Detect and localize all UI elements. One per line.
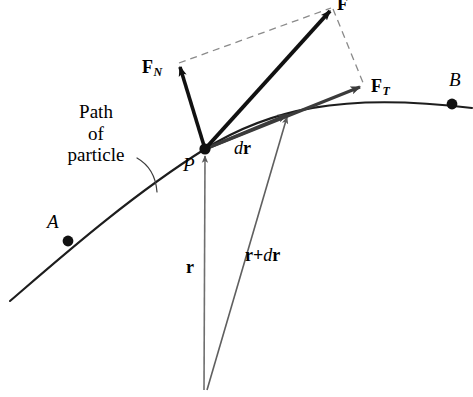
vector-f-resultant [205,11,330,149]
r-plus-dr-operator: + [253,245,263,265]
force-decomposition-diagram: Path of particle A B P F FN FT dr r r+dr [0,0,473,397]
f-tangential-base: F [371,76,382,96]
dr-differential: d [234,138,243,158]
point-p-label: P [183,155,195,174]
vector-f-normal-label: FN [142,58,162,78]
r-vector: r [186,257,194,277]
caption-line-2: of [46,123,146,145]
vector-dr-label: dr [234,139,251,157]
r-plus-dr-second: r [272,245,280,265]
point-b-label: B [449,70,461,89]
caption-line-3: particle [46,144,146,166]
f-normal-base: F [142,57,153,77]
vector-r-label: r [186,258,194,276]
f-normal-subscript: N [154,65,163,79]
point-b-marker [447,99,458,110]
vector-f-resultant-label: F [337,0,348,13]
vector-r-plus-dr-label: r+dr [245,246,280,264]
point-a-label: A [47,212,59,231]
point-a-marker [63,236,74,247]
vector-f-normal [180,67,205,149]
caption-line-1: Path [46,101,146,123]
f-resultant-base: F [337,0,348,14]
point-p-marker [199,143,210,154]
vector-f-tangential [205,87,360,149]
vector-f-tangential-label: FT [371,77,390,97]
dr-vector: r [243,138,251,158]
vector-r [204,156,205,390]
path-of-particle-caption: Path of particle [46,101,146,166]
r-plus-dr-first: r [245,245,253,265]
f-tangential-subscript: T [383,84,390,98]
dashed-parallelogram-right [333,9,364,85]
diagram-canvas [0,0,473,397]
r-plus-dr-differential: d [263,245,272,265]
